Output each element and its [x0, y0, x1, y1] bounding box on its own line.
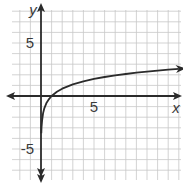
- x-tick-label-5: 5: [90, 98, 98, 115]
- x-axis-label: x: [171, 99, 180, 116]
- y-axis-label: y: [28, 1, 38, 18]
- grid: [12, 10, 181, 180]
- graph: 5 5 -5 x y: [0, 0, 183, 185]
- y-tick-label-neg5: -5: [21, 140, 34, 157]
- y-tick-label-5: 5: [26, 34, 34, 51]
